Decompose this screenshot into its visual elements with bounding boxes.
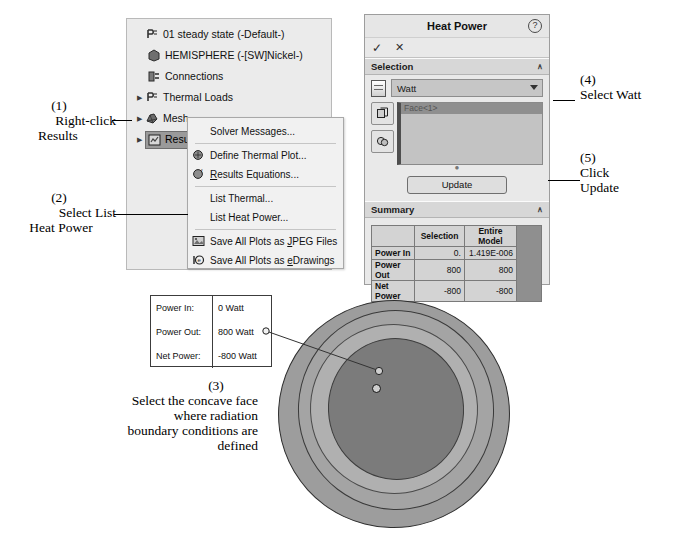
menu-item-label-post: PEG Files <box>292 236 337 247</box>
edrawings-icon: e <box>188 254 210 268</box>
row-label: Power In <box>372 247 415 260</box>
menu-item-list-thermal[interactable]: List Thermal... <box>188 189 343 208</box>
chevron-right-icon[interactable]: ▶ <box>133 94 145 102</box>
panel-titlebar: Heat Power ? <box>365 15 549 38</box>
tree-item-study[interactable]: 01 steady state (-Default-) <box>133 24 331 45</box>
leader-line-step-1 <box>112 120 132 121</box>
col-selection: Selection <box>415 226 465 247</box>
result-key: Net Power: <box>151 351 212 361</box>
result-key: Power Out: <box>151 327 212 337</box>
annotation-step-4: (4) Select Watt <box>580 72 641 102</box>
update-button[interactable]: Update <box>407 176 507 194</box>
tree-item-thermal-loads[interactable]: ▶ Thermal Loads <box>133 87 331 108</box>
selection-listbox[interactable]: Face<1> <box>397 102 543 165</box>
svg-text:e: e <box>197 257 201 263</box>
menu-item-label: Solver Messages... <box>210 126 295 137</box>
step-3-line-3: boundary conditions are <box>58 423 258 438</box>
results-icon <box>147 133 162 147</box>
menu-item-solver-messages[interactable]: Solver Messages... <box>188 122 343 141</box>
menu-item-label-post: Drawings <box>293 255 335 266</box>
units-icon <box>371 80 386 97</box>
menu-item-label: List Heat Power... <box>210 212 288 223</box>
menu-item-label: Results Equations... <box>210 169 299 180</box>
step-1-number: (1) <box>8 98 116 113</box>
table-filler <box>517 225 542 302</box>
menu-item-label: Define Thermal Plot... <box>210 150 307 161</box>
chevron-right-icon[interactable]: ▶ <box>133 115 145 123</box>
result-value: 0 Watt <box>212 296 271 320</box>
step-3-line-1: Select the concave face <box>58 393 258 408</box>
units-select-value: Watt <box>397 83 416 94</box>
menu-item-label-rest: esults Equations... <box>217 169 299 180</box>
menu-item-define-thermal-plot[interactable]: Define Thermal Plot... <box>188 146 343 165</box>
units-select[interactable]: Watt <box>391 79 543 97</box>
menu-item-label-pre: Save All Plots as <box>210 236 287 247</box>
chevron-up-icon[interactable]: ∧ <box>537 205 543 214</box>
menu-item-save-plots-jpeg[interactable]: Save All Plots as JPEG Files <box>188 232 343 251</box>
results-context-menu[interactable]: Solver Messages... Define Thermal Plot..… <box>187 117 344 269</box>
annotation-step-3: (3) Select the concave face where radiat… <box>58 378 258 453</box>
list-item[interactable]: Face<1> <box>401 103 542 114</box>
cell-selection: 0. <box>415 247 465 260</box>
menu-item-save-plots-edrawings[interactable]: e Save All Plots as eDrawings <box>188 251 343 270</box>
resize-grip-icon[interactable]: ● <box>371 165 543 173</box>
accept-check-icon[interactable]: ✓ <box>372 41 382 55</box>
step-2-number: (2) <box>8 190 116 205</box>
leader-line-result-box <box>262 318 392 388</box>
leader-line-step-4 <box>553 100 575 101</box>
selection-section-title: Selection <box>371 61 413 72</box>
chevron-down-icon[interactable] <box>530 85 538 90</box>
step-3-line-4: defined <box>58 438 258 453</box>
step-4-number: (4) <box>580 72 641 87</box>
summary-section-header[interactable]: Summary ∧ <box>365 201 549 218</box>
table-row: Power Out 800 800 <box>372 260 517 281</box>
row-label: Net Power <box>372 281 415 302</box>
heat-power-property-manager: Heat Power ? ✓ ✕ Selection ∧ Watt <box>364 14 550 285</box>
col-entire-model: Entire Model <box>464 226 516 247</box>
connections-icon <box>147 70 162 84</box>
cell-entire-model: 1.419E-006 <box>464 247 516 260</box>
cancel-x-icon[interactable]: ✕ <box>395 41 404 54</box>
table-row: Net Power -800 -800 <box>372 281 517 302</box>
cell-selection: 800 <box>415 260 465 281</box>
cell-selection: -800 <box>415 281 465 302</box>
step-5-line-1: Click <box>580 165 619 180</box>
menu-item-results-equations[interactable]: f Results Equations... <box>188 165 343 184</box>
units-row: Watt <box>371 79 543 97</box>
step-3-number: (3) <box>58 378 258 393</box>
mesh-icon <box>145 112 160 126</box>
selection-area: Face<1> <box>371 102 543 165</box>
tree-item-label: Thermal Loads <box>163 91 233 104</box>
tree-item-hemisphere[interactable]: HEMISPHERE (-[SW]Nickel-) <box>133 45 331 66</box>
menu-separator <box>195 143 336 144</box>
summary-table: Selection Entire Model Power In 0. 1.419… <box>371 225 517 302</box>
step-2-line-1: Select List <box>8 205 116 220</box>
tree-item-label: Mesh <box>163 112 189 125</box>
help-icon[interactable]: ? <box>528 19 542 33</box>
chevron-up-icon[interactable]: ∧ <box>537 62 543 71</box>
menu-item-label: Save All Plots as JPEG Files <box>210 236 337 247</box>
result-row: Power Out: 800 Watt <box>151 320 271 344</box>
tree-item-label: Connections <box>165 70 223 83</box>
select-faces-button[interactable] <box>371 102 394 125</box>
step-3-line-2: where radiation <box>58 408 258 423</box>
select-bodies-button[interactable] <box>371 130 394 153</box>
update-button-wrap: Update <box>371 174 543 194</box>
result-key: Power In: <box>151 303 212 313</box>
selection-section-header[interactable]: Selection ∧ <box>365 58 549 75</box>
panel-action-bar: ✓ ✕ <box>365 38 549 58</box>
step-1-line-2: Results <box>8 128 116 143</box>
summary-section-body: Selection Entire Model Power In 0. 1.419… <box>365 218 549 306</box>
thermal-plot-icon <box>188 149 210 163</box>
selection-tool-buttons <box>371 102 393 165</box>
selection-section-body: Watt Face<1> ● Update <box>365 75 549 198</box>
chevron-right-icon[interactable]: ▶ <box>133 136 145 144</box>
result-row: Power In: 0 Watt <box>151 296 271 320</box>
thermal-loads-icon <box>145 91 160 105</box>
heat-power-result-box: Power In: 0 Watt Power Out: 800 Watt Net… <box>150 295 272 367</box>
tree-item-label: HEMISPHERE (-[SW]Nickel-) <box>165 49 303 62</box>
tree-item-connections[interactable]: Connections <box>133 66 331 87</box>
result-row: Net Power: -800 Watt <box>151 344 271 368</box>
menu-item-list-heat-power[interactable]: List Heat Power... <box>188 208 343 227</box>
step-5-number: (5) <box>580 150 619 165</box>
